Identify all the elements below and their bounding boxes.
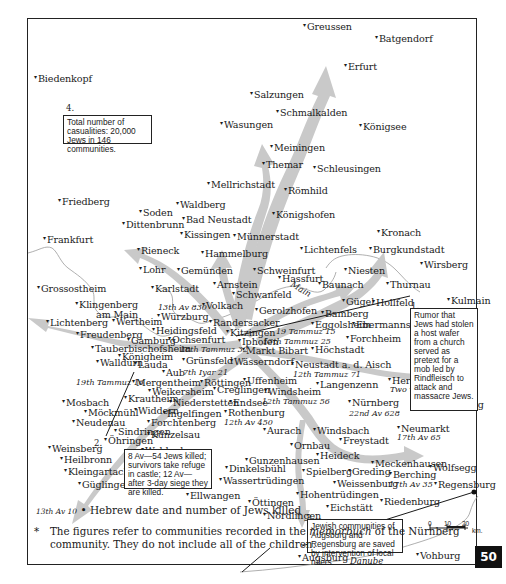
town-marker-icon: ▾ [200, 377, 203, 384]
town-label: ▾Thurnau [386, 280, 431, 290]
town-label: ▾Schwanfeld [232, 290, 292, 300]
town-label: ▾Heilbronn [60, 455, 112, 465]
town-marker-icon: ▾ [229, 397, 232, 404]
town-marker-icon: ▾ [389, 469, 392, 476]
town-marker-icon: ▾ [296, 489, 299, 496]
town-label: ▾Greding [348, 467, 391, 477]
town-label: ▾Künzelsau [147, 430, 200, 440]
town-label: ▾Höchstadt [311, 345, 364, 355]
town-marker-icon: ▾ [162, 367, 165, 374]
town-marker-icon: ▾ [245, 455, 248, 462]
town-marker-icon: ▾ [248, 497, 251, 504]
town-marker-icon: ▾ [272, 209, 275, 216]
town-label: ▾Langenzenn [316, 380, 378, 390]
town-label: ▾Hollfeld [372, 298, 414, 308]
town-label: ▾Karlstadt [151, 284, 199, 294]
town-marker-icon: ▾ [250, 89, 253, 96]
town-label: ▾Kronach [377, 228, 421, 238]
town-marker-icon: ▾ [186, 490, 189, 497]
town-label: ▾Königsee [359, 122, 406, 132]
town-marker-icon: ▾ [264, 386, 267, 393]
town-label: ▾Vohburg [416, 551, 460, 561]
town-label: ▾Windsheim [264, 387, 321, 397]
town-marker-icon: ▾ [253, 265, 256, 272]
footnote-text-a: The figures refer to communities recorde… [50, 525, 309, 537]
town-label: ▾Friedberg [58, 197, 110, 207]
town-label: ▾Ellwangen [186, 491, 240, 501]
town-marker-icon: ▾ [224, 407, 227, 414]
town-label: ▾Freystadt [339, 436, 389, 446]
footnote: * The figures refer to communities recor… [36, 525, 466, 550]
town-marker-icon: ▾ [78, 479, 81, 486]
town-marker-icon: ▾ [226, 327, 229, 334]
town-label: ▾Königshofen [272, 210, 335, 220]
town-label: ▾Neustadt a. d. Aisch [291, 360, 391, 370]
town-label: ▾Bad Neustadt [182, 215, 251, 225]
town-marker-icon: ▾ [84, 407, 87, 414]
town-marker-icon: ▾ [75, 299, 78, 306]
town-marker-icon: ▾ [201, 248, 204, 255]
town-marker-icon: ▾ [176, 199, 179, 206]
town-label: ▾Schmalkalden [276, 108, 347, 118]
town-label: ▾Burgkundstadt [369, 245, 444, 255]
town-marker-icon: ▾ [284, 185, 287, 192]
town-marker-icon: ▾ [139, 207, 142, 214]
town-label: ▾Riedenburg [380, 497, 440, 507]
town-marker-icon: ▾ [348, 466, 351, 473]
town-marker-icon: ▾ [112, 316, 115, 323]
town-marker-icon: ▾ [386, 279, 389, 286]
town-marker-icon: ▾ [447, 295, 450, 302]
town-marker-icon: ▾ [313, 163, 316, 170]
town-label: ▾Spielberg [302, 467, 352, 477]
date-label: 19 Tammuz 15 [276, 328, 335, 336]
town-marker-icon: ▾ [139, 264, 142, 271]
town-label: ▾Aurach [263, 426, 301, 436]
town-label: ▾Creglingen [213, 385, 270, 395]
town-marker-icon: ▾ [372, 297, 375, 304]
town-marker-icon: ▾ [58, 196, 61, 203]
date-label: 17th Av 65 [397, 434, 441, 442]
town-marker-icon: ▾ [168, 334, 171, 341]
town-marker-icon: ▾ [397, 423, 400, 430]
date-label: 12th Tammuz 56 [262, 398, 330, 406]
town-marker-icon: ▾ [290, 440, 293, 447]
town-label: ▾Lohr [139, 265, 165, 275]
date-label: 12th Tammuz 71 [293, 371, 361, 379]
town-marker-icon: ▾ [434, 479, 437, 486]
town-label: ▾Regensburg [434, 480, 496, 490]
town-marker-icon: ▾ [369, 244, 372, 251]
town-marker-icon: ▾ [380, 496, 383, 503]
town-label: ▾Schleusingen [313, 164, 381, 174]
town-marker-icon: ▾ [104, 435, 107, 442]
town-marker-icon: ▾ [232, 289, 235, 296]
town-marker-icon: ▾ [313, 425, 316, 432]
town-label: ▾Volkach [202, 301, 243, 311]
town-label: ▾Greussen [303, 22, 352, 32]
town-marker-icon: ▾ [220, 119, 223, 126]
date-label: 12th Av 450 [224, 419, 273, 427]
town-label: ▾Lichtenberg [46, 318, 108, 328]
date-label: 13th Tammuz 25 [263, 338, 331, 346]
town-marker-icon: ▾ [124, 393, 127, 400]
town-marker-icon: ▾ [371, 458, 374, 465]
footnote-text: The figures refer to communities recorde… [36, 525, 466, 550]
town-label: ▾Niesten [344, 266, 385, 276]
town-marker-icon: ▾ [127, 335, 130, 342]
town-marker-icon: ▾ [326, 502, 329, 509]
town-label: ▾Dittenbrunn [122, 220, 184, 230]
town-label: ▾Wassertrüdingen [219, 476, 304, 486]
town-marker-icon: ▾ [177, 265, 180, 272]
town-marker-icon: ▾ [233, 231, 236, 238]
town-label: ▾Grünsfeld [182, 356, 233, 366]
town-label: ▾Rothenburg [224, 408, 285, 418]
town-marker-icon: ▾ [303, 21, 306, 28]
town-marker-icon: ▾ [91, 343, 94, 350]
town-label: ▾Lichtenfels [300, 245, 357, 255]
town-label: ▾Römhild [284, 186, 328, 196]
town-marker-icon: ▾ [180, 229, 183, 236]
footnote-star: * [34, 525, 39, 538]
date-label: 7th Iyar 21 [183, 369, 228, 377]
town-marker-icon: ▾ [48, 443, 51, 450]
town-label: ▾Markt Bibart [242, 346, 308, 356]
town-marker-icon: ▾ [37, 283, 40, 290]
